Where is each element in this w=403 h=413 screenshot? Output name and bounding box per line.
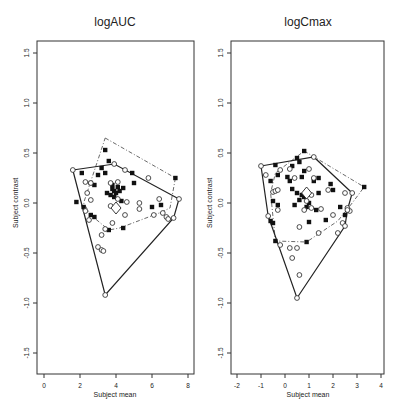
marker-square: [295, 191, 299, 195]
marker-square: [150, 205, 154, 209]
y-tick-label: -1.5: [23, 347, 30, 359]
marker-circle: [326, 188, 331, 193]
y-tick-label: 1.0: [23, 98, 30, 107]
marker-square: [343, 213, 347, 217]
marker-square: [103, 148, 107, 152]
marker-circle: [350, 191, 355, 196]
marker-circle: [335, 231, 340, 236]
marker-square: [96, 173, 100, 177]
marker-circle: [263, 173, 268, 178]
marker-square: [116, 185, 120, 189]
x-tick-label: 2: [331, 382, 335, 389]
marker-square: [324, 218, 328, 222]
marker-square: [173, 176, 177, 180]
marker-circle: [108, 181, 113, 186]
marker-circle: [115, 197, 120, 202]
marker-square: [276, 173, 280, 177]
marker-circle: [103, 293, 108, 298]
figure: logAUC -1.5-1.0-0.50.00.51.01.5 02468 Su…: [0, 0, 403, 413]
marker-circle: [160, 211, 165, 216]
marker-circle: [292, 176, 297, 181]
x-tick-label: 4: [114, 382, 118, 389]
plot-area: [70, 138, 181, 297]
marker-circle: [112, 162, 117, 167]
marker-circle: [146, 176, 151, 181]
y-axis: -1.5-1.0-0.50.00.51.01.5: [23, 48, 37, 358]
panel-title: logCmax: [284, 15, 331, 29]
y-tick-label: -1.0: [217, 297, 224, 309]
marker-circle: [331, 213, 336, 218]
x-axis-label: Subject mean: [94, 391, 137, 399]
marker-circle: [157, 197, 162, 202]
marker-circle: [87, 218, 92, 223]
marker-square: [288, 179, 292, 183]
marker-circle: [307, 167, 312, 172]
x-tick-label: 0: [42, 382, 46, 389]
marker-square: [132, 181, 136, 185]
y-axis-label: Subject contrast: [12, 178, 20, 228]
marker-circle: [275, 208, 280, 213]
y-tick-label: 0.0: [217, 198, 224, 207]
marker-square: [276, 203, 280, 207]
marker-circle: [275, 188, 280, 193]
marker-circle: [83, 209, 88, 214]
y-tick-label: -0.5: [217, 247, 224, 259]
marker-square: [273, 163, 277, 167]
marker-circle: [297, 225, 302, 230]
x-tick-label: 1: [307, 382, 311, 389]
marker-circle: [343, 191, 348, 196]
y-tick-label: 1.5: [23, 48, 30, 57]
marker-circle: [297, 273, 302, 278]
y-axis: -1.5-1.0-0.50.00.51.01.5: [217, 48, 231, 358]
marker-circle: [103, 227, 108, 232]
marker-square: [80, 171, 84, 175]
marker-circle: [83, 180, 88, 185]
marker-circle: [70, 168, 75, 173]
marker-circle: [88, 198, 93, 203]
marker-circle: [123, 168, 128, 173]
hull-dashdot: [271, 151, 365, 242]
marker-circle: [287, 167, 292, 172]
y-tick-label: -0.5: [23, 247, 30, 259]
marker-circle: [99, 233, 104, 238]
y-tick-label: -1.5: [217, 347, 224, 359]
marker-square: [331, 188, 335, 192]
x-tick-label: 0: [283, 382, 287, 389]
marker-circle: [123, 213, 128, 218]
x-tick-label: 2: [78, 382, 82, 389]
marker-square: [297, 160, 301, 164]
marker-square: [271, 199, 275, 203]
marker-circle: [137, 201, 142, 206]
marker-square: [302, 169, 306, 173]
marker-square: [307, 220, 311, 224]
marker-square: [300, 175, 304, 179]
marker-circle: [290, 256, 295, 261]
marker-square: [99, 166, 103, 170]
marker-circle: [137, 207, 142, 212]
marker-square: [297, 198, 301, 202]
marker-square: [302, 149, 306, 153]
marker-square: [130, 171, 134, 175]
marker-circle: [278, 168, 283, 173]
y-tick-label: 0.5: [23, 148, 30, 157]
marker-square: [271, 221, 275, 225]
y-tick-label: -1.0: [23, 297, 30, 309]
marker-circle: [302, 208, 307, 213]
marker-circle: [101, 249, 106, 254]
x-tick-label: 8: [186, 382, 190, 389]
marker-square: [290, 187, 294, 191]
marker-square: [316, 176, 320, 180]
marker-circle: [110, 221, 115, 226]
marker-circle: [319, 207, 324, 212]
y-tick-label: 0.5: [217, 148, 224, 157]
y-tick-label: 1.0: [217, 98, 224, 107]
marker-square: [314, 208, 318, 212]
x-tick-label: 3: [355, 382, 359, 389]
marker-square: [105, 191, 109, 195]
marker-diamond-center: [111, 202, 121, 214]
marker-circle: [311, 155, 316, 160]
x-axis: 02468: [42, 374, 190, 389]
marker-circle: [343, 224, 348, 229]
marker-square: [107, 159, 111, 163]
marker-circle: [311, 176, 316, 181]
